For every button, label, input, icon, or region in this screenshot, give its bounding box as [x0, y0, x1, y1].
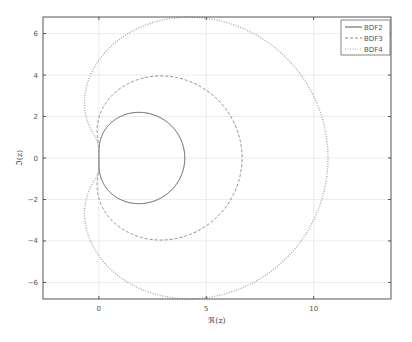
stability-region-chart: 05106420−2−4−6 ℜ(z) ℑ(z) BDF2 BDF3 BDF4	[0, 0, 412, 342]
legend-label-bdf2: BDF2	[364, 24, 383, 32]
x-tick-label: 0	[97, 305, 101, 313]
y-tick-label: 4	[34, 72, 39, 80]
y-tick-label: −6	[28, 279, 39, 287]
x-axis-label: ℜ(z)	[208, 316, 225, 325]
legend: BDF2 BDF3 BDF4	[341, 20, 390, 55]
x-tick-label: 5	[204, 305, 208, 313]
y-tick-label: 0	[34, 155, 38, 163]
y-axis-label: ℑ(z)	[15, 150, 24, 166]
y-tick-label: −2	[28, 196, 38, 204]
grid-lines	[43, 17, 391, 299]
legend-label-bdf3: BDF3	[364, 35, 383, 43]
y-tick-label: −4	[28, 237, 39, 245]
y-tick-label: 6	[34, 30, 39, 38]
y-tick-label: 2	[34, 113, 38, 121]
legend-label-bdf4: BDF4	[364, 46, 383, 54]
ticks: 05106420−2−4−6	[28, 17, 391, 313]
x-tick-label: 10	[309, 305, 318, 313]
